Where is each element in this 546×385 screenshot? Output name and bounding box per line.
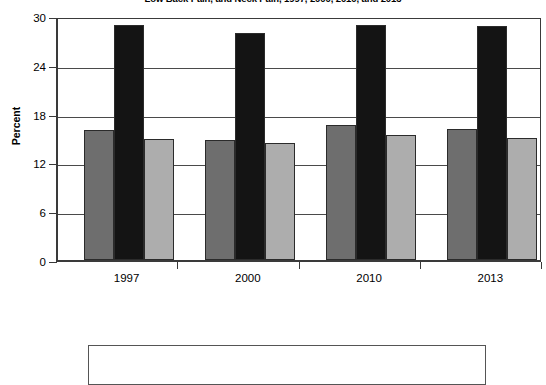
bar bbox=[447, 129, 477, 260]
bar bbox=[507, 138, 537, 260]
bar bbox=[84, 130, 114, 260]
x-tick-mark bbox=[541, 262, 542, 269]
plot-area bbox=[56, 18, 541, 262]
bar bbox=[265, 143, 295, 260]
x-tick-label: 2010 bbox=[324, 272, 414, 284]
bar bbox=[235, 33, 265, 260]
x-tick-mark bbox=[177, 262, 178, 269]
x-tick-mark bbox=[420, 262, 421, 269]
bar bbox=[386, 135, 416, 260]
bar-group bbox=[447, 19, 537, 260]
bar bbox=[477, 26, 507, 260]
bar-group bbox=[326, 19, 416, 260]
x-tick-label: 2000 bbox=[203, 272, 293, 284]
y-tick-mark bbox=[49, 262, 57, 263]
x-tick-label: 2013 bbox=[445, 272, 535, 284]
y-tick-label: 30 bbox=[10, 12, 46, 24]
bar bbox=[326, 125, 356, 260]
bar bbox=[356, 25, 386, 260]
bar-group bbox=[84, 19, 174, 260]
bar bbox=[114, 25, 144, 260]
y-axis-title: Percent bbox=[10, 96, 22, 156]
chart-title: Low Back Pain, and Neck Pain, 1997, 2000… bbox=[0, 0, 546, 4]
y-tick-label: 24 bbox=[10, 61, 46, 73]
legend-box bbox=[88, 345, 486, 385]
bar bbox=[144, 139, 174, 260]
y-tick-label: 18 bbox=[10, 110, 46, 122]
x-tick-label: 1997 bbox=[82, 272, 172, 284]
y-tick-label: 12 bbox=[10, 158, 46, 170]
bar-group bbox=[205, 19, 295, 260]
y-tick-label: 0 bbox=[10, 256, 46, 268]
x-tick-mark bbox=[299, 262, 300, 269]
y-tick-label: 6 bbox=[10, 207, 46, 219]
bar bbox=[205, 140, 235, 260]
